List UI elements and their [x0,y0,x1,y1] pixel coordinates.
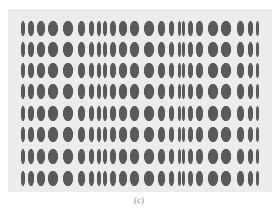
ellipse-r4-c22 [248,106,253,121]
ellipse-r5-c10 [119,127,127,142]
ellipse-r7-c3 [48,171,58,186]
ellipse-r1-c22 [248,42,253,57]
ellipse-r4-c7 [97,106,101,121]
ellipse-r4-c10 [119,106,127,121]
ellipse-r4-c21 [237,106,244,121]
ellipse-r6-c8 [103,149,107,164]
ellipse-r5-c9 [110,127,116,142]
ellipse-r3-c7 [97,84,101,99]
ellipse-r6-c17 [188,149,193,164]
ellipse-r6-c20 [221,149,231,164]
ellipse-r4-c0 [21,106,25,121]
ellipse-r1-c16 [182,42,185,57]
ellipse-r5-c13 [158,127,165,142]
ellipse-r5-c7 [97,127,101,142]
ellipse-r5-c23 [256,127,259,142]
ellipse-r1-c6 [89,42,94,57]
ellipse-r6-c18 [196,149,203,164]
ellipse-r1-c17 [188,42,193,57]
ellipse-r0-c20 [221,21,231,36]
ellipse-r7-c21 [237,171,244,186]
ellipse-r0-c2 [37,21,45,36]
ellipse-r5-c0 [21,127,25,142]
ellipse-r7-c14 [169,171,174,186]
ellipse-r4-c5 [78,106,85,121]
ellipse-r2-c10 [119,63,127,78]
ellipse-r4-c13 [158,106,165,121]
ellipse-r2-c12 [144,63,154,78]
ellipse-r2-c1 [28,63,34,78]
ellipse-r0-c5 [78,21,85,36]
ellipse-r0-c14 [169,21,174,36]
ellipse-r3-c9 [110,84,116,99]
ellipse-r3-c21 [237,84,244,99]
ellipse-r3-c5 [78,84,85,99]
ellipse-r0-c23 [256,21,259,36]
ellipse-r0-c18 [196,21,203,36]
ellipse-r3-c11 [130,84,139,99]
ellipse-r2-c16 [182,63,185,78]
ellipse-r0-c3 [48,21,58,36]
ellipse-r0-c22 [248,21,253,36]
ellipse-r7-c9 [110,171,116,186]
ellipse-r2-c0 [21,63,25,78]
ellipse-r2-c9 [110,63,116,78]
ellipse-r3-c4 [63,84,73,99]
ellipse-r3-c18 [196,84,203,99]
ellipse-r5-c17 [188,127,193,142]
ellipse-r7-c2 [37,171,45,186]
ellipse-r4-c1 [28,106,34,121]
ellipse-r7-c12 [144,171,154,186]
ellipse-r2-c13 [158,63,165,78]
ellipse-r3-c23 [256,84,259,99]
ellipse-r5-c12 [144,127,154,142]
ellipse-r1-c10 [119,42,127,57]
ellipse-r4-c14 [169,106,174,121]
ellipse-r4-c6 [89,106,94,121]
ellipse-r0-c16 [182,21,185,36]
ellipse-r1-c1 [28,42,34,57]
ellipse-r3-c0 [21,84,25,99]
ellipse-r4-c8 [103,106,107,121]
ellipse-r5-c16 [182,127,185,142]
ellipse-r2-c17 [188,63,193,78]
ellipse-r0-c7 [97,21,101,36]
ellipse-r1-c0 [21,42,25,57]
ellipse-r6-c1 [28,149,34,164]
ellipse-r0-c0 [21,21,25,36]
ellipse-r4-c23 [256,106,259,121]
ellipse-r7-c22 [248,171,253,186]
ellipse-r4-c12 [144,106,154,121]
ellipse-r1-c20 [221,42,231,57]
ellipse-r6-c2 [37,149,45,164]
ellipse-r4-c11 [130,106,139,121]
ellipse-r6-c13 [158,149,165,164]
ellipse-r7-c23 [256,171,259,186]
ellipse-r4-c2 [37,106,45,121]
ellipse-r6-c10 [119,149,127,164]
ellipse-r2-c20 [221,63,231,78]
ellipse-r5-c1 [28,127,34,142]
ellipse-r7-c17 [188,171,193,186]
ellipse-r1-c8 [103,42,107,57]
ellipse-r5-c22 [248,127,253,142]
ellipse-r5-c15 [178,127,181,142]
ellipse-r1-c9 [110,42,116,57]
ellipse-r6-c21 [237,149,244,164]
ellipse-r6-c7 [97,149,101,164]
ellipse-r1-c12 [144,42,154,57]
ellipse-r0-c9 [110,21,116,36]
ellipse-r5-c5 [78,127,85,142]
ellipse-r0-c21 [237,21,244,36]
ellipse-r5-c11 [130,127,139,142]
ellipse-r6-c6 [89,149,94,164]
ellipse-r5-c14 [169,127,174,142]
ellipse-r3-c10 [119,84,127,99]
ellipse-r2-c4 [63,63,73,78]
ellipse-r1-c7 [97,42,101,57]
ellipse-r1-c23 [256,42,259,57]
ellipse-r7-c18 [196,171,203,186]
ellipse-r1-c4 [63,42,73,57]
ellipse-r7-c7 [97,171,101,186]
ellipse-r6-c14 [169,149,174,164]
